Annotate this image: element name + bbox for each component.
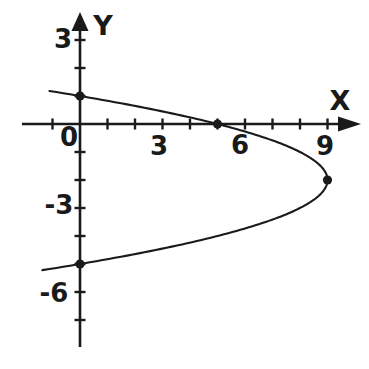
y-axis-arrow-icon [72, 12, 89, 31]
x-axis-arrow-icon [338, 117, 361, 132]
y-tick-label-3: 3 [54, 24, 72, 54]
y-tick-label-neg3: -3 [45, 190, 74, 220]
parabola-graph: 3 -3 -6 0 3 6 9 Y X [0, 0, 369, 369]
y-tick-label-neg6: -6 [40, 278, 69, 308]
x-tick-label-9: 9 [316, 131, 334, 161]
x-tick-label-6: 6 [231, 130, 249, 160]
axes [22, 12, 361, 347]
marked-points [75, 91, 332, 268]
parabola-figure: 3 -3 -6 0 3 6 9 Y X [0, 0, 369, 369]
data-point-0-1 [75, 91, 84, 100]
data-point-9--2 [323, 175, 332, 184]
axis-titles: Y X [92, 10, 350, 116]
origin-label: 0 [60, 122, 78, 152]
x-tick-label-3: 3 [150, 131, 168, 161]
x-axis-title: X [330, 85, 351, 116]
data-point-5-0 [213, 119, 222, 128]
data-point-0--5 [75, 259, 84, 268]
y-axis-title: Y [92, 10, 113, 41]
